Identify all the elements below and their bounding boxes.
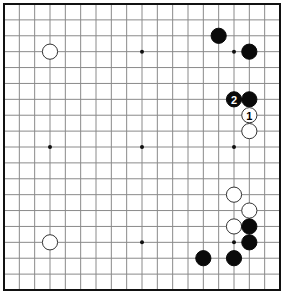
white-stone-circle xyxy=(42,44,57,59)
black-stone xyxy=(242,219,257,234)
black-stone xyxy=(196,251,211,266)
white-stone xyxy=(242,124,257,139)
black-stone xyxy=(226,251,241,266)
move-number-label: 1 xyxy=(246,110,252,122)
black-stone-circle xyxy=(226,251,241,266)
black-stone-circle xyxy=(242,235,257,250)
move-number-label: 2 xyxy=(231,94,237,106)
white-stone-circle xyxy=(226,187,241,202)
white-stone-circle xyxy=(42,235,57,250)
black-stone xyxy=(242,92,257,107)
star-point xyxy=(232,145,236,149)
go-board-svg: 21 xyxy=(0,0,284,295)
black-stone-circle xyxy=(196,251,211,266)
black-stone-circle xyxy=(242,92,257,107)
white-stone xyxy=(42,44,57,59)
star-point xyxy=(140,145,144,149)
white-stone-circle xyxy=(242,124,257,139)
white-stone-circle xyxy=(226,219,241,234)
white-stone xyxy=(242,203,257,218)
star-point xyxy=(140,240,144,244)
white-stone xyxy=(226,187,241,202)
black-stone xyxy=(242,44,257,59)
black-stone-circle xyxy=(242,219,257,234)
white-stone xyxy=(226,219,241,234)
black-stone xyxy=(211,28,226,43)
black-stone-circle xyxy=(211,28,226,43)
go-board: 21 xyxy=(0,0,284,295)
white-stone: 1 xyxy=(242,108,257,123)
white-stone xyxy=(42,235,57,250)
star-point xyxy=(232,240,236,244)
black-stone: 2 xyxy=(226,92,241,107)
star-point xyxy=(232,50,236,54)
black-stone xyxy=(242,235,257,250)
star-point xyxy=(140,50,144,54)
white-stone-circle xyxy=(242,203,257,218)
black-stone-circle xyxy=(242,44,257,59)
star-point xyxy=(48,145,52,149)
